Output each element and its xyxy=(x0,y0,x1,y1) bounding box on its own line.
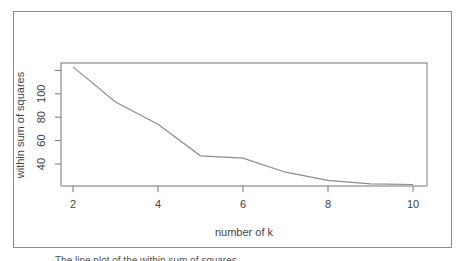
y-tick-label: 100 xyxy=(35,85,47,103)
x-tick-label: 8 xyxy=(325,198,331,210)
x-tick-label: 2 xyxy=(70,198,76,210)
x-tick-label: 10 xyxy=(407,198,419,210)
y-tick-label: 60 xyxy=(35,134,47,146)
data-series xyxy=(73,67,413,185)
axes: 246810406080100number of kwithin sum of … xyxy=(14,63,427,238)
plot-box xyxy=(61,63,427,186)
y-tick-label: 80 xyxy=(35,111,47,123)
y-tick-label: 40 xyxy=(35,158,47,170)
series-line xyxy=(73,67,413,185)
figure-caption: The line plot of the within sum of squar… xyxy=(55,255,237,261)
x-tick-label: 6 xyxy=(240,198,246,210)
x-axis-label: number of k xyxy=(215,226,274,238)
y-axis-label: within sum of squares xyxy=(14,71,26,179)
line-chart: 246810406080100number of kwithin sum of … xyxy=(0,0,462,261)
x-tick-label: 4 xyxy=(155,198,161,210)
